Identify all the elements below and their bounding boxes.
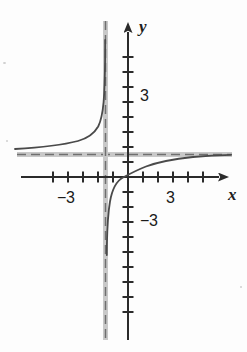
x-tick-label-negative-3: −3 bbox=[57, 190, 75, 206]
y-tick-label-negative-3: −3 bbox=[140, 213, 158, 229]
x-axis-label: x bbox=[228, 186, 237, 203]
curve-left-branch bbox=[15, 40, 105, 149]
scan-speck bbox=[3, 62, 6, 64]
scan-speck bbox=[240, 286, 242, 288]
graph-figure: x y −3 3 3 −3 bbox=[0, 0, 247, 352]
y-tick-label-positive-3: 3 bbox=[140, 88, 149, 104]
x-tick-label-positive-3: 3 bbox=[166, 190, 175, 206]
y-axis-label: y bbox=[139, 18, 147, 35]
coordinate-plane bbox=[0, 0, 247, 352]
scan-speck bbox=[6, 140, 8, 142]
